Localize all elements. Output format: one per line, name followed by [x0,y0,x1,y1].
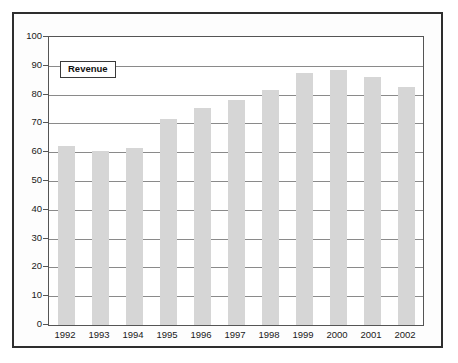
x-tick-label: 2002 [385,330,425,340]
bar-1996 [194,108,211,325]
figure-frame: 1009080706050403020100 Revenue 199219931… [12,12,443,348]
y-tick-mark [43,151,48,152]
bar-1997 [228,100,245,325]
bar-1999 [296,73,313,325]
y-tick-mark [43,238,48,239]
y-axis: 1009080706050403020100 [14,36,42,324]
y-tick-label: 10 [31,290,42,300]
y-tick-label: 70 [31,117,42,127]
y-tick-label: 50 [31,175,42,185]
y-tick-mark [43,65,48,66]
bar-1993 [92,151,109,325]
y-tick-mark [43,324,48,325]
y-tick-label: 20 [31,261,42,271]
y-tick-mark [43,94,48,95]
bar-2001 [364,77,381,325]
bar-1998 [262,90,279,325]
y-tick-mark [43,36,48,37]
bar-chart: 1009080706050403020100 Revenue 199219931… [14,14,445,350]
y-tick-label: 80 [31,89,42,99]
legend: Revenue [60,61,116,78]
y-tick-label: 100 [26,31,42,41]
bar-1994 [126,148,143,325]
y-tick-label: 60 [31,146,42,156]
y-tick-label: 90 [31,60,42,70]
legend-label-revenue: Revenue [68,63,108,74]
y-tick-mark [43,180,48,181]
y-tick-mark [43,122,48,123]
bar-1995 [160,119,177,325]
y-tick-mark [43,209,48,210]
y-tick-label: 30 [31,233,42,243]
y-tick-label: 40 [31,204,42,214]
plot-area [48,36,424,326]
bar-2002 [398,87,415,325]
y-tick-mark [43,295,48,296]
y-tick-label: 0 [37,319,42,329]
bar-1992 [58,146,75,325]
bar-2000 [330,70,347,325]
y-tick-mark [43,266,48,267]
